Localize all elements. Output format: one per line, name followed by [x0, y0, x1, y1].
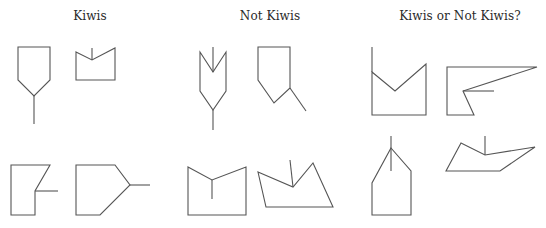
unknown-shape-4	[446, 136, 535, 171]
shape-outline	[258, 47, 290, 103]
shape-outline	[76, 165, 130, 215]
kiwi-shape-3	[11, 165, 58, 215]
kiwi-shape-2	[76, 48, 115, 80]
shape-outline	[18, 47, 50, 96]
not-kiwi-shape-2	[258, 47, 306, 111]
shape-outline	[11, 165, 50, 215]
shape-outline	[372, 64, 426, 115]
shape-outline	[258, 163, 333, 207]
unknown-shape-2	[447, 67, 537, 115]
not-kiwi-shape-3	[188, 167, 246, 215]
not-kiwi-shape-4	[258, 160, 333, 207]
kiwis-column-shapes	[11, 47, 150, 215]
unknown-column-shapes	[372, 47, 537, 215]
not-kiwi-shape-1	[200, 47, 226, 130]
shape-tail-line	[290, 88, 306, 111]
shape-outline	[76, 48, 115, 80]
unknown-shape-1	[372, 47, 426, 115]
not-kiwis-column-shapes	[188, 47, 333, 215]
kiwi-shape-4	[76, 165, 150, 215]
shape-tail-line	[290, 160, 293, 187]
shapes-canvas	[0, 0, 546, 228]
kiwi-shape-1	[18, 47, 50, 124]
shape-outline	[446, 143, 535, 171]
shape-outline	[188, 167, 246, 215]
unknown-shape-3	[372, 136, 411, 215]
